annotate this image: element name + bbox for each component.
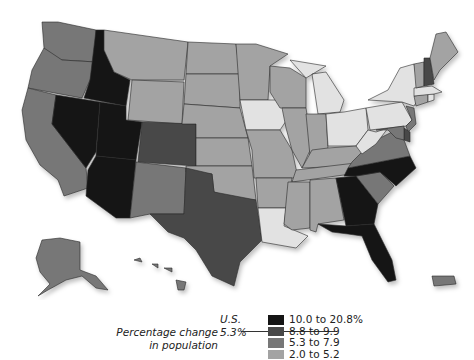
state-PA[interactable] [366,102,412,130]
state-AZ[interactable] [86,156,136,218]
legend-title-line1: Percentage change [116,326,218,339]
state-FL[interactable] [318,224,396,282]
legend-item: 10.0 to 20.8% [268,314,363,326]
state-VT[interactable] [414,62,424,88]
legend-item: 5.3 to 7.9 [268,337,363,349]
us-value: 5.3% [220,326,247,339]
us-average-label: U.S. 5.3% [220,313,247,339]
legend-swatch [268,350,284,360]
state-SD[interactable] [184,74,240,108]
state-RI[interactable] [428,94,434,102]
legend-label: 2.0 to 5.2 [289,349,340,360]
legend-swatch [268,315,284,325]
state-MT[interactable] [104,30,188,80]
state-AK[interactable] [36,238,108,296]
legend-swatch [268,338,284,348]
state-CO[interactable] [138,122,196,166]
legend-swatch [268,327,284,337]
legend-label: 10.0 to 20.8% [289,314,363,325]
state-HI[interactable] [134,258,186,290]
us-population-map [0,0,474,300]
legend-label: 8.8 to 9.9 [289,326,340,337]
state-KS[interactable] [196,138,252,166]
legend-title: Percentage change in population [116,326,218,352]
state-NY[interactable] [368,64,420,106]
legend-item: 2.0 to 5.2 [268,349,363,360]
state-MS[interactable] [284,182,310,230]
state-NM[interactable] [130,162,186,218]
state-ME[interactable] [430,32,458,80]
legend-title-line2: in population [116,339,218,352]
us-label: U.S. [220,313,247,326]
state-ND[interactable] [186,42,240,74]
state-WY[interactable] [128,80,184,124]
legend: 10.0 to 20.8% 8.8 to 9.9 5.3 to 7.9 2.0 … [268,314,363,360]
state-PR[interactable] [432,276,456,286]
legend-label: 5.3 to 7.9 [289,337,340,348]
